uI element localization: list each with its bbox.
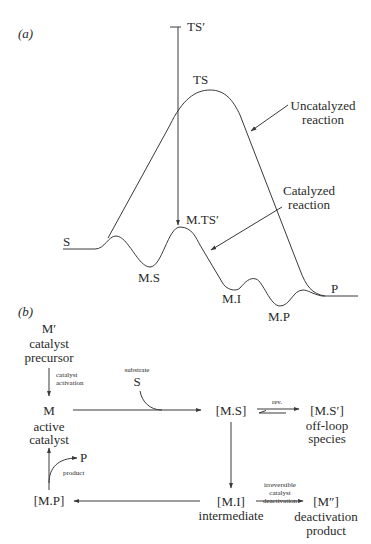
substrate-entry-curve [140, 391, 162, 410]
p-label: P [331, 281, 338, 296]
substrate-label: substrate [125, 366, 150, 374]
m-prime-desc-line1: catalyst [29, 336, 69, 351]
panel-a-label: (a) [18, 26, 33, 41]
mi-complex: [M.I] [217, 494, 245, 509]
mts-prime-label: M.TS′ [186, 212, 219, 227]
ms-label: M.S [138, 270, 160, 285]
catalyzed-label-line1: Catalyzed [283, 183, 335, 198]
panel-b-catalytic-cycle: (b) M′ catalyst precursor catalyst activ… [18, 304, 358, 538]
ts-label: TS [193, 72, 208, 87]
ms-prime-complex: [M.S′] [310, 403, 344, 418]
mi-desc: intermediate [199, 508, 264, 523]
mi-label: M.I [222, 291, 241, 306]
mp-label: M.P [268, 309, 290, 324]
s-label: S [63, 234, 70, 249]
m-double-prime-species: [M″] [313, 494, 339, 509]
catalyzed-label-line2: reaction [288, 197, 330, 212]
m-prime-species: M′ [42, 321, 57, 336]
m-desc-line2: catalyst [29, 432, 69, 447]
deactivation-label-line1: irreversible [264, 481, 296, 489]
uncatalyzed-label-line2: reaction [302, 112, 344, 127]
product-label: product [63, 469, 84, 477]
product-species: P [80, 450, 87, 465]
panel-a-energy-profile: (a) TS′ TS S M.S M.TS′ M.I M.P P Uncatal… [18, 19, 358, 324]
m-species: M [43, 403, 55, 418]
ms-complex: [M.S] [216, 403, 247, 418]
m-prime-desc-line2: precursor [24, 350, 74, 365]
ts-prime-label: TS′ [187, 19, 205, 34]
panel-b-label: (b) [18, 304, 33, 319]
catalyzed-pointer-arrow [211, 207, 282, 250]
uncatalyzed-label-line1: Uncatalyzed [291, 98, 356, 113]
ms-prime-desc-line2: species [308, 431, 346, 446]
m-double-prime-desc-line1: deactivation [294, 509, 358, 524]
activation-label-line2: activation [56, 379, 84, 387]
m-double-prime-desc-line2: product [306, 523, 346, 538]
rev-label: rev. [272, 398, 282, 406]
deactivation-label-line2: catalyst [269, 489, 290, 497]
substrate-species: S [133, 374, 140, 389]
catalysis-diagram: (a) TS′ TS S M.S M.TS′ M.I M.P P Uncatal… [0, 0, 371, 544]
activation-label-line1: catalyst [56, 371, 77, 379]
uncatalyzed-pointer-arrow [251, 105, 288, 131]
mp-complex: [M.P] [34, 493, 65, 508]
catalyzed-reaction-curve [63, 227, 358, 306]
